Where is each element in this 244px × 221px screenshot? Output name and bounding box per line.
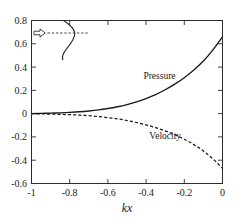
x-tick-label-3: -0.4 [138, 187, 154, 198]
series-label-pressure: Pressure [143, 71, 175, 81]
horn-profile-curve [62, 21, 74, 60]
inset-schematic [34, 21, 88, 60]
plot-frame [32, 21, 223, 184]
right-arrow-icon [34, 29, 45, 37]
y-tick-label-7: -0.6 [11, 178, 27, 189]
y-tick-label-3: 0.2 [15, 85, 28, 96]
y-tick-label-1: 0.6 [15, 38, 28, 49]
y-axis-ticks [32, 21, 223, 184]
x-axis-tick-labels: -1 -0.8 -0.6 -0.4 -0.2 0 [27, 187, 225, 198]
series-label-velocity: Velocity [149, 131, 181, 141]
y-tick-label-2: 0.4 [15, 62, 28, 73]
x-tick-label-1: -0.8 [62, 187, 78, 198]
y-tick-label-4: 0 [22, 108, 27, 119]
y-tick-label-0: 0.8 [15, 15, 28, 26]
series-velocity-line [32, 114, 223, 169]
y-tick-label-6: -0.4 [11, 155, 27, 166]
chart-figure: 0.8 0.6 0.4 0.2 0 -0.2 -0.4 -0.6 -1 -0.8… [0, 0, 244, 221]
x-tick-label-4: -0.2 [176, 187, 192, 198]
data-series-group [32, 37, 223, 169]
x-tick-label-0: -1 [27, 187, 35, 198]
x-axis-ticks [32, 21, 223, 184]
y-axis-tick-labels: 0.8 0.6 0.4 0.2 0 -0.2 -0.4 -0.6 [11, 15, 27, 189]
x-tick-label-2: -0.6 [100, 187, 116, 198]
x-tick-label-5: 0 [220, 187, 225, 198]
y-tick-label-5: -0.2 [11, 131, 27, 142]
chart-canvas: 0.8 0.6 0.4 0.2 0 -0.2 -0.4 -0.6 -1 -0.8… [0, 0, 244, 221]
series-pressure-line [32, 37, 223, 114]
x-axis-title: kx [122, 201, 133, 215]
